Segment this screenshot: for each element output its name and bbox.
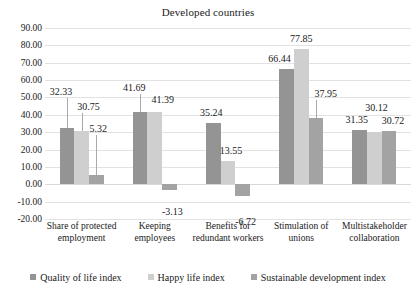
legend-item[interactable]: Sustainable development index	[251, 272, 386, 283]
bar[interactable]	[206, 123, 221, 184]
y-axis-tick-label: -10.00	[2, 197, 42, 207]
x-axis-category-label: Stimulation ofunions	[265, 221, 338, 244]
bar-value-label: 37.95	[315, 88, 338, 99]
bar-value-label: -3.13	[162, 206, 183, 217]
label-leader-line	[67, 98, 68, 128]
chart-legend: Quality of life indexHappy life indexSus…	[0, 268, 416, 286]
label-leader-line	[96, 135, 97, 175]
legend-item[interactable]: Quality of life index	[30, 272, 121, 283]
bar[interactable]	[147, 112, 162, 184]
bar-chart: Developed countries 90.0080.0070.0060.00…	[0, 0, 416, 294]
bar-value-label: 31.35	[345, 114, 368, 125]
chart-title: Developed countries	[0, 6, 416, 18]
bar[interactable]	[89, 175, 104, 184]
bar-value-label: 77.85	[290, 33, 313, 44]
x-axis-category-labels: Share of protectedemploymentKeepingemplo…	[45, 221, 411, 255]
bar[interactable]	[162, 184, 177, 189]
bar-value-label: 35.24	[200, 107, 223, 118]
bar-value-label: 5.32	[90, 123, 108, 134]
legend-label: Quality of life index	[40, 272, 121, 283]
bar-value-label: 13.55	[220, 145, 243, 156]
legend-label: Sustainable development index	[261, 272, 386, 283]
legend-swatch-icon	[251, 274, 257, 280]
x-axis-category-label: Share of protectedemployment	[45, 221, 118, 244]
bar-value-label: 32.33	[50, 86, 73, 97]
bar[interactable]	[294, 49, 309, 184]
y-axis-tick-label: 80.00	[2, 40, 42, 50]
y-axis-tick-label: -20.00	[2, 214, 42, 224]
y-axis-tick-label: 0.00	[2, 179, 42, 189]
bar[interactable]	[367, 132, 382, 184]
bar-value-label: 30.72	[382, 115, 405, 126]
y-axis-tick-label: 20.00	[2, 145, 42, 155]
label-leader-line	[82, 113, 83, 131]
bar-value-label: 66.44	[268, 53, 291, 64]
bar[interactable]	[279, 69, 294, 184]
y-axis-tick-label: 10.00	[2, 162, 42, 172]
x-axis-category-label: Benefits forredundant workers	[191, 221, 264, 244]
legend-label: Happy life index	[158, 272, 225, 283]
y-axis-tick-label: 60.00	[2, 75, 42, 85]
bar[interactable]	[382, 131, 397, 184]
y-axis-tick-label: 30.00	[2, 127, 42, 137]
y-axis-tick-label: 40.00	[2, 110, 42, 120]
bar-value-label: 41.39	[152, 94, 175, 105]
legend-swatch-icon	[30, 274, 36, 280]
bar-value-label: 41.69	[123, 82, 146, 93]
plot-area: 32.3330.755.3241.6941.39-3.1335.2413.55-…	[45, 28, 411, 219]
label-leader-line	[316, 100, 317, 118]
x-axis-category-label: Multistakeholdercollaboration	[338, 221, 411, 244]
label-leader-line	[140, 94, 141, 112]
bar-value-label: 30.75	[77, 101, 100, 112]
y-axis-tick-label: 70.00	[2, 58, 42, 68]
legend-item[interactable]: Happy life index	[148, 272, 225, 283]
bar[interactable]	[60, 128, 75, 184]
bar[interactable]	[309, 118, 324, 184]
x-axis-category-label: Keepingemployees	[118, 221, 191, 244]
bar[interactable]	[352, 130, 367, 184]
bar-value-label: 30.12	[365, 102, 388, 113]
gridline	[45, 219, 411, 220]
y-axis: 90.0080.0070.0060.0050.0040.0030.0020.00…	[0, 28, 42, 219]
y-axis-tick-label: 50.00	[2, 92, 42, 102]
bar[interactable]	[221, 161, 236, 185]
bar[interactable]	[133, 112, 148, 184]
bar[interactable]	[235, 184, 250, 196]
y-axis-tick-label: 90.00	[2, 23, 42, 33]
legend-swatch-icon	[148, 274, 154, 280]
bar[interactable]	[74, 131, 89, 184]
